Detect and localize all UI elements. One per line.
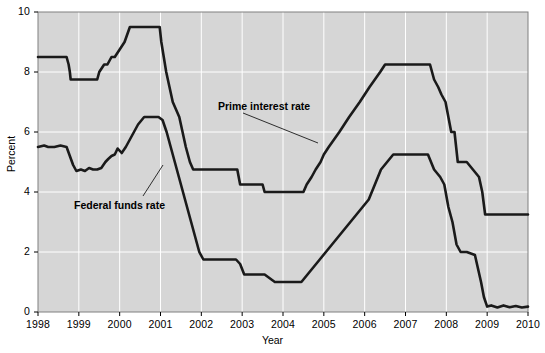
- y-tick-label: 2: [2, 245, 30, 257]
- chart-plot-area: [0, 0, 545, 353]
- x-axis-label: Year: [0, 334, 545, 346]
- x-tick-label: 2004: [263, 318, 303, 330]
- x-tick-label: 2010: [508, 318, 545, 330]
- x-tick-label: 2008: [426, 318, 466, 330]
- x-tick-label: 2007: [386, 318, 426, 330]
- federal-funds-rate-annotation: Federal funds rate: [74, 199, 165, 211]
- x-tick-label: 2003: [222, 318, 262, 330]
- y-tick-label: 8: [2, 65, 30, 77]
- y-tick-label: 0: [2, 305, 30, 317]
- prime-interest-rate-annotation: Prime interest rate: [218, 100, 310, 112]
- x-tick-label: 2000: [100, 318, 140, 330]
- x-tick-label: 2001: [141, 318, 181, 330]
- x-tick-label: 2006: [345, 318, 385, 330]
- x-tick-label: 2005: [304, 318, 344, 330]
- y-tick-label: 10: [2, 5, 30, 17]
- y-tick-label: 4: [2, 185, 30, 197]
- x-tick-label: 2009: [467, 318, 507, 330]
- y-tick-label: 6: [2, 125, 30, 137]
- x-tick-label: 1999: [59, 318, 99, 330]
- x-tick-marks: [38, 312, 528, 316]
- x-tick-label: 2002: [181, 318, 221, 330]
- x-tick-label: 1998: [18, 318, 58, 330]
- interest-rate-line-chart: Prime interest rate Federal funds rate P…: [0, 0, 545, 353]
